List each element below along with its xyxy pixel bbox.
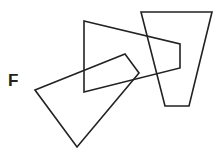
shapes-svg [0,0,222,156]
trapezoid-shape [141,12,212,106]
quadrilateral-shape [35,54,139,147]
diagram-canvas: F [0,0,222,156]
